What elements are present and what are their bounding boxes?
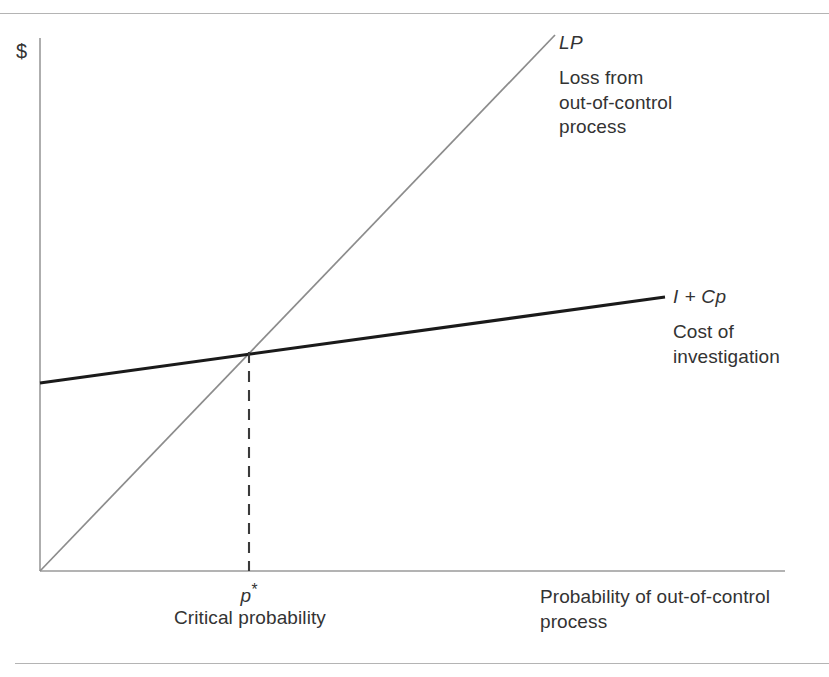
loss-line-lp (40, 35, 555, 571)
loss-line-caption: Loss from out-of-control process (559, 66, 672, 140)
cost-line-symbol-tail: Cp (701, 286, 726, 307)
cost-line-symbol-op: + (684, 286, 696, 307)
figure-container: $ LP Loss from out-of-control process I … (0, 0, 829, 677)
cost-line-caption: Cost of investigation (673, 320, 780, 369)
critical-probability-star: * (251, 581, 257, 598)
x-axis-caption: Probability of out-of-control process (540, 585, 770, 634)
critical-probability-symbol-text: p (240, 585, 251, 606)
critical-probability-caption: Critical probability (150, 606, 350, 631)
critical-probability-symbol: p* (199, 580, 299, 608)
cost-line-i-plus-cp (40, 297, 665, 383)
y-axis-label-dollar: $ (16, 40, 27, 63)
loss-line-symbol-label: LP (559, 31, 583, 56)
loss-line-symbol-text: LP (559, 32, 583, 53)
cost-line-symbol-label: I + Cp (673, 285, 726, 310)
